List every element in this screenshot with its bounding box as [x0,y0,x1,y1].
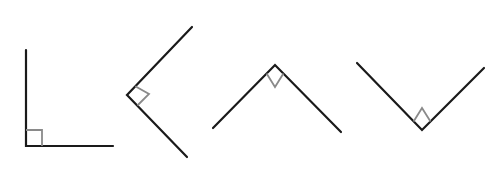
angle-arms [357,63,484,130]
angle-arms [213,65,341,132]
right-angle-left-pointing [127,27,192,157]
right-angle-marker [267,74,284,88]
right-angle-marker [26,130,42,146]
right-angle-marker [414,108,431,122]
right-angle-up-pointing [213,65,341,132]
right-angle-L [26,50,113,146]
angle-arms [127,27,192,157]
angle-arms [26,50,113,146]
right-angles-diagram [0,0,496,170]
right-angle-marker [135,86,149,105]
diagram-svg [0,0,496,170]
right-angle-down-pointing [357,63,484,130]
